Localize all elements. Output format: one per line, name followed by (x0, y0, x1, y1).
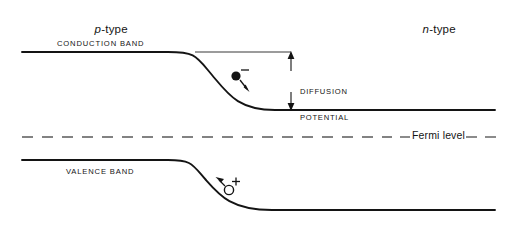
conduction-band-curve (22, 52, 495, 110)
n-type-suffix: -type (429, 23, 456, 35)
diffusion-potential-label: DIFFUSION POTENTIAL (300, 71, 349, 139)
electron-carrier-marker (231, 70, 249, 92)
band-diagram-figure: p-type n-type CONDUCTION BAND DIFFUSION … (0, 0, 517, 234)
p-type-suffix: -type (101, 23, 128, 35)
diffusion-potential-line-2: POTENTIAL (300, 114, 349, 123)
conduction-band-label: CONDUCTION BAND (57, 40, 144, 49)
valence-band-label: VALENCE BAND (66, 168, 134, 177)
fermi-level-label: Fermi level (412, 130, 465, 142)
hole-carrier-marker (216, 177, 241, 195)
diffusion-potential-arrow (288, 51, 295, 111)
diffusion-potential-line-1: DIFFUSION (300, 88, 349, 97)
n-type-region-label: n-type (409, 10, 456, 49)
